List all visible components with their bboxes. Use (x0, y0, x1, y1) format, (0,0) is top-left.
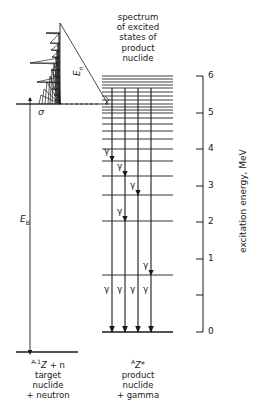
center-title-line: product (98, 43, 178, 53)
resonance-spectrum (16, 23, 100, 104)
energy-axis (196, 76, 203, 332)
center-title: spectrum of excited states of product nu… (98, 12, 178, 63)
axis-tick-label-0: 0 (208, 326, 214, 336)
axis-tick-label-2: 2 (208, 216, 214, 226)
product-caption-line: + gamma (102, 390, 174, 400)
gamma-label: γ (130, 180, 135, 190)
gamma-label: γ (117, 284, 122, 294)
target-caption-line: + neutron (12, 390, 84, 400)
product-excited-marker: * (141, 360, 145, 370)
energy-level-diagram: spectrum of excited states of product nu… (0, 0, 265, 403)
product-caption: AZ* product nuclide + gamma (102, 357, 174, 400)
center-title-line: states of (98, 32, 178, 42)
neutron-energy-triangle (16, 23, 109, 104)
neutron-energy-subscript: n (77, 67, 84, 71)
neutron-energy-base: E (72, 70, 82, 76)
product-caption-line: nuclide (102, 380, 174, 390)
axis-tick-label-5: 5 (208, 107, 214, 117)
gamma-label: γ (117, 206, 122, 216)
center-title-line: nuclide (98, 53, 178, 63)
axis-tick-label-3: 3 (208, 180, 214, 190)
center-title-line: of excited (98, 22, 178, 32)
binding-energy-symbol: EB (20, 214, 30, 226)
gamma-label: γ (143, 284, 148, 294)
gamma-label: γ (104, 146, 109, 156)
product-formula: AZ* (102, 357, 174, 370)
gamma-label: γ (130, 284, 135, 294)
binding-energy-subscript: B (26, 219, 30, 226)
axis-tick-label-4: 4 (208, 143, 214, 153)
axis-title: excitation energy, MeV (238, 149, 248, 253)
target-mass-number: A-1 (31, 358, 41, 365)
binding-energy-arrow (16, 104, 78, 355)
gamma-label: γ (104, 284, 109, 294)
target-caption-line: nuclide (12, 380, 84, 390)
gamma-label: γ (117, 161, 122, 171)
target-formula: A-1Z + n (12, 357, 84, 370)
target-caption: A-1Z + n target nuclide + neutron (12, 357, 84, 400)
neutron-energy-symbol: En (72, 67, 84, 77)
center-title-line: spectrum (98, 12, 178, 22)
gamma-label: γ (143, 260, 148, 270)
target-formula-rest: + n (47, 360, 65, 370)
axis-tick-label-6: 6 (208, 70, 214, 80)
target-caption-line: target (12, 370, 84, 380)
cross-section-symbol: σ (38, 106, 44, 117)
product-caption-line: product (102, 370, 174, 380)
axis-tick-label-1: 1 (208, 253, 214, 263)
